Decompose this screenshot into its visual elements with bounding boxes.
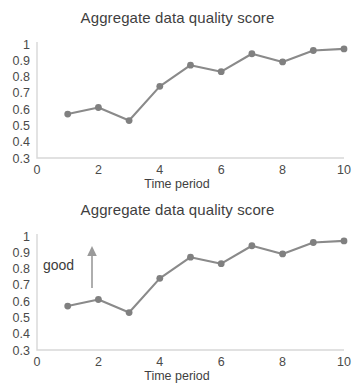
y-tick-label: 0.9 [13,54,30,68]
chart-canvas-bottom: 10.90.80.70.60.50.40.3 0246810 good Time… [0,192,355,383]
x-tick-label: 0 [34,163,41,177]
chart-panel-top: Aggregate data quality score 10.90.80.70… [0,0,355,192]
data-point-marker [126,309,133,316]
y-tick-label: 0.3 [13,344,30,358]
y-tick-label: 0.4 [13,135,30,149]
x-tick-label: 8 [279,355,286,369]
data-point-marker [249,50,256,57]
data-point-marker [218,68,225,75]
data-point-marker [341,237,348,244]
y-tick-label: 0.3 [13,152,30,166]
data-point-marker [95,104,102,111]
y-tick-label: 0.6 [13,103,30,117]
series-line-bottom [68,241,344,313]
data-point-marker [156,275,163,282]
y-tick-label: 0.9 [13,246,30,260]
x-axis-label-bottom: Time period [144,369,210,383]
x-axis-label-top: Time period [144,177,210,191]
data-point-marker [64,303,71,310]
y-axis-ticks-top: 10.90.80.70.60.50.40.3 [13,38,30,166]
y-tick-label: 0.7 [13,86,30,100]
data-point-marker [218,260,225,267]
y-tick-label: 1 [23,38,30,52]
axis-lines-bottom [37,234,344,350]
y-tick-label: 0.8 [13,262,30,276]
y-tick-label: 0.5 [13,311,30,325]
chart-panel-bottom: Aggregate data quality score 10.90.80.70… [0,192,355,383]
data-point-marker [249,242,256,249]
chart-canvas-top: 10.90.80.70.60.50.40.3 0246810 Time peri… [0,0,355,192]
x-axis-ticks-bottom: 0246810 [34,355,351,369]
series-line-top [68,49,344,121]
y-tick-label: 0.6 [13,295,30,309]
y-tick-label: 0.7 [13,278,30,292]
x-tick-label: 4 [156,355,163,369]
x-tick-label: 8 [279,163,286,177]
up-arrow-icon [87,246,97,288]
data-point-marker [187,254,194,261]
y-tick-label: 0.4 [13,327,30,341]
x-tick-label: 6 [218,163,225,177]
x-axis-ticks-top: 0246810 [34,163,351,177]
y-tick-label: 1 [23,230,30,244]
data-point-marker [64,111,71,118]
y-tick-label: 0.5 [13,119,30,133]
axis-lines-top [37,42,344,158]
data-point-marker [95,296,102,303]
data-point-marker [126,117,133,124]
y-tick-label: 0.8 [13,70,30,84]
x-tick-label: 10 [337,163,351,177]
x-tick-label: 2 [95,163,102,177]
data-point-marker [156,83,163,90]
annotation-good-label: good [43,257,74,273]
data-point-marker [341,45,348,52]
x-tick-label: 2 [95,355,102,369]
x-tick-label: 6 [218,355,225,369]
data-point-marker [310,47,317,54]
x-tick-label: 10 [337,355,351,369]
data-point-marker [310,239,317,246]
x-tick-label: 0 [34,355,41,369]
y-axis-ticks-bottom: 10.90.80.70.60.50.40.3 [13,230,30,358]
data-point-marker [279,59,286,66]
data-point-marker [187,62,194,69]
data-point-marker [279,251,286,258]
x-tick-label: 4 [156,163,163,177]
